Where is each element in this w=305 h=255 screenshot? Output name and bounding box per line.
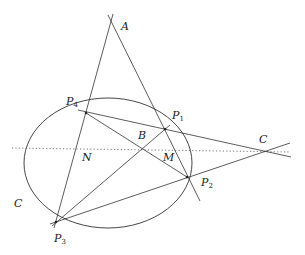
label-p4: P4 [66,96,78,109]
label-n: N [82,152,92,163]
point-p1 [164,128,167,131]
point-p3 [55,221,58,224]
point-p4 [85,112,88,115]
line-a-p3 [54,14,113,228]
label-p2: P2 [201,177,213,190]
dotted-polar-line [12,148,290,152]
line-a-p2 [108,15,200,201]
label-c-point: C [259,134,267,145]
point-p2 [186,176,189,179]
label-a: A [121,21,129,32]
label-p3: P3 [54,233,66,246]
label-p1: P1 [172,110,184,123]
label-conic: C [14,198,22,209]
diagram-canvas [0,0,305,255]
line-p3-p1 [52,125,170,226]
label-b: B [138,130,146,141]
label-m: M [163,152,174,163]
